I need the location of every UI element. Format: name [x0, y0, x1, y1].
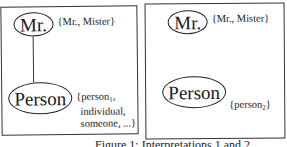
- hypernym-edge: [33, 36, 34, 82]
- mr-synset-label: {Mr., Mister}: [57, 16, 115, 29]
- person-node: Person: [162, 76, 226, 108]
- mr-node-label: Mr.: [20, 15, 47, 34]
- interpretation-2-panel: Mr. {Mr., Mister} Person {person2}: [145, 3, 286, 140]
- synset-line-2: individual,: [76, 105, 136, 118]
- synset-prefix: {person: [229, 99, 262, 110]
- interpretation-1-panel: Mr. {Mr., Mister} Person {person1, indiv…: [0, 5, 138, 135]
- synset-line-1: {person: [76, 91, 109, 102]
- mr-node-label: Mr.: [174, 13, 201, 32]
- person-node-label: Person: [14, 89, 66, 109]
- person-node-label: Person: [168, 82, 220, 101]
- mr-synset-label: {Mr., Mister}: [212, 13, 270, 25]
- synset-suffix: }: [266, 99, 271, 110]
- person-synset-label: {person1, individual, someone, ...}: [76, 90, 136, 130]
- sense-subscript: 1: [109, 96, 113, 104]
- mr-node: Mr.: [168, 10, 208, 34]
- person-node: Person: [8, 82, 72, 115]
- mr-node: Mr.: [13, 12, 53, 36]
- figure-caption: Figure 1: Interpretations 1 and 2: [95, 138, 250, 147]
- synset-line-3: someone, ...}: [76, 117, 136, 130]
- person-synset-label: {person2}: [229, 99, 271, 114]
